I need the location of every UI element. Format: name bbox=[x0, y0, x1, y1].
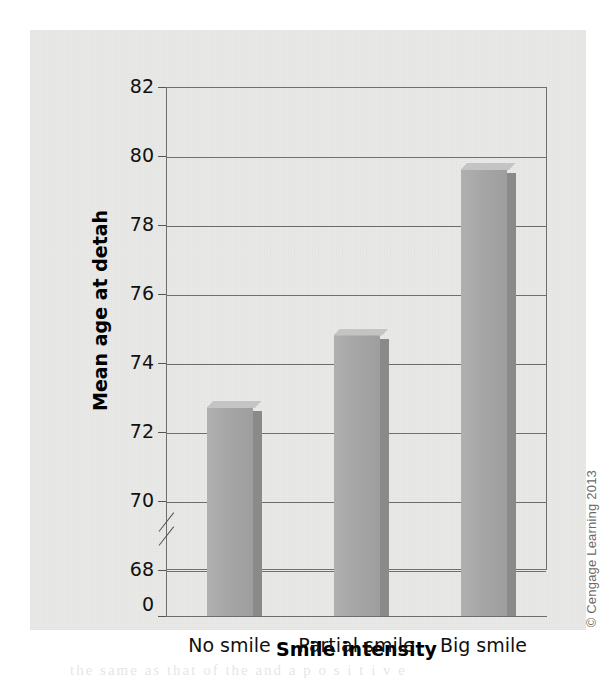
bar-side-face bbox=[507, 173, 516, 616]
x-category-label: No smile bbox=[166, 634, 293, 656]
copyright-notice: © Cengage Learning 2013 bbox=[584, 470, 599, 627]
x-category-label: Big smile bbox=[420, 634, 547, 656]
y-axis-spine-lower bbox=[166, 570, 167, 616]
y-tick-mark bbox=[158, 225, 166, 226]
y-axis-title: Mean age at detah bbox=[89, 211, 111, 411]
y-tick-mark bbox=[158, 294, 166, 295]
y-tick-mark bbox=[158, 156, 166, 157]
bar-top-face bbox=[461, 163, 516, 170]
y-tick-mark bbox=[158, 87, 166, 88]
bar-top-face bbox=[207, 401, 262, 408]
y-tick-label: 0 bbox=[34, 593, 154, 615]
y-tick-label: 72 bbox=[34, 420, 154, 442]
bar-front-face bbox=[461, 169, 507, 616]
y-tick-label: 76 bbox=[34, 282, 154, 304]
y-tick-mark bbox=[158, 616, 166, 617]
y-tick-mark bbox=[158, 570, 166, 571]
bar-front-face bbox=[334, 335, 380, 617]
bar-top-face bbox=[334, 329, 389, 336]
y-tick-label: 74 bbox=[34, 351, 154, 373]
bar bbox=[207, 401, 262, 616]
x-category-label: Partial smile bbox=[293, 634, 420, 656]
bar bbox=[461, 163, 516, 616]
bar-front-face bbox=[207, 407, 253, 616]
y-tick-label: 70 bbox=[34, 489, 154, 511]
y-tick-label: 78 bbox=[34, 213, 154, 235]
y-tick-label: 82 bbox=[34, 75, 154, 97]
y-tick-mark bbox=[158, 501, 166, 502]
axis-baseline bbox=[166, 616, 547, 617]
gridline bbox=[167, 157, 546, 158]
figure-panel: Mean age at detah Smile intensity © Ceng… bbox=[30, 30, 586, 630]
y-axis-break-symbol bbox=[159, 517, 181, 557]
bar-side-face bbox=[253, 411, 262, 616]
bar bbox=[334, 329, 389, 617]
y-tick-label: 68 bbox=[34, 558, 154, 580]
bar-side-face bbox=[380, 339, 389, 617]
y-tick-mark bbox=[158, 363, 166, 364]
scan-bleed-through-text: the same as that of the and a p o s i t … bbox=[70, 662, 550, 688]
y-tick-label: 80 bbox=[34, 144, 154, 166]
y-tick-mark bbox=[158, 432, 166, 433]
